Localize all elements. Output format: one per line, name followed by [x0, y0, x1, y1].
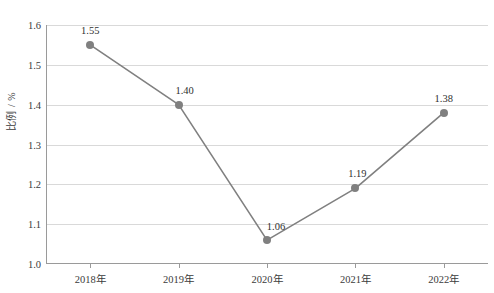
y-axis-tick-label: 1.2: [28, 179, 41, 190]
y-axis-tick-label: 1.5: [28, 59, 41, 70]
y-axis-tick-label: 1.1: [28, 219, 41, 230]
x-axis-tick-label: 2020年: [252, 271, 283, 286]
y-axis-tick-label: 1.4: [28, 99, 41, 110]
x-axis-tick-mark: [90, 264, 91, 268]
data-point-marker: [263, 236, 271, 244]
x-axis-tick-label: 2021年: [340, 271, 371, 286]
data-point-marker: [440, 109, 448, 117]
data-point-marker: [351, 184, 359, 192]
x-axis-tick-mark: [267, 264, 268, 268]
x-axis-tick-mark: [355, 264, 356, 268]
data-point-label: 1.38: [435, 93, 453, 104]
x-axis-tick-label: 2022年: [428, 271, 459, 286]
data-point-label: 1.19: [348, 168, 366, 179]
data-point-label: 1.40: [175, 85, 193, 96]
y-axis-tick-label: 1.0: [28, 259, 41, 270]
x-axis-tick-label: 2018年: [75, 271, 106, 286]
y-axis-tick-label: 1.6: [28, 20, 41, 31]
y-axis-tick-label: 1.3: [28, 139, 41, 150]
y-axis-title: 比例 / %: [3, 67, 18, 157]
line-chart: 比例 / % 1.01.11.21.31.41.51.6 1.551.401.0…: [0, 0, 494, 293]
data-point-label: 1.06: [267, 221, 285, 232]
x-axis-tick-mark: [444, 264, 445, 268]
x-axis-tick-mark: [179, 264, 180, 268]
data-point-marker: [175, 101, 183, 109]
data-point-label: 1.55: [81, 25, 99, 36]
plot-area: 1.01.11.21.31.41.51.6 1.551.401.061.191.…: [46, 25, 488, 264]
x-axis-tick-label: 2019年: [163, 271, 194, 286]
data-point-marker: [86, 41, 94, 49]
